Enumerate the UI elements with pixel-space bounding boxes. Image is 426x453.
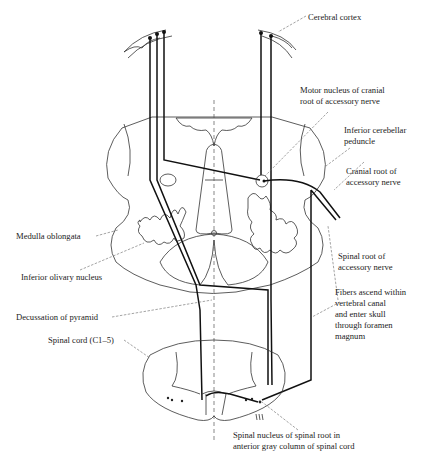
label-spinal-root-line1: Spinal root of — [338, 251, 385, 261]
label-inferior-cerebellar-line2: peduncle — [344, 136, 375, 146]
label-spinal-root-line2: accessory nerve — [338, 262, 393, 272]
leader-lines — [80, 16, 364, 430]
label-fibers-line2: vertebral canal — [335, 298, 386, 308]
label-fibers-line1: Fibers ascend within — [335, 287, 406, 297]
medulla-outline — [107, 117, 326, 294]
olivary-right — [248, 193, 298, 253]
cerebral-cortex-left — [124, 30, 172, 58]
label-spinal-nucleus-line1: Spinal nucleus of spinal root in — [233, 430, 340, 440]
cortical-neurons — [148, 30, 273, 40]
label-cranial-root-line1: Cranial root of — [346, 166, 397, 176]
label-medulla-oblongata: Medulla oblongata — [16, 231, 81, 241]
spinal-root — [262, 190, 336, 400]
icp-left — [124, 124, 130, 176]
tracts-right — [261, 33, 272, 385]
cerebral-cortex-right — [258, 30, 296, 58]
label-inferior-cerebellar-line1: Inferior cerebellar — [344, 125, 406, 135]
label-motor-nucleus-line1: Motor nucleus of cranial — [300, 85, 385, 95]
label-motor-nucleus-line2: root of accessory nerve — [300, 96, 380, 106]
label-cerebral-cortex: Cerebral cortex — [308, 12, 361, 22]
label-inferior-olivary-nucleus: Inferior olivary nucleus — [21, 272, 102, 282]
olivary-left — [138, 207, 186, 244]
label-fibers-line5: magnum — [335, 331, 365, 341]
label-fibers-line4: through foramen — [335, 320, 393, 330]
label-fibers-line3: and enter skull — [335, 309, 386, 319]
icp-right — [300, 124, 305, 176]
label-decussation-of-pyramid: Decussation of pyramid — [16, 312, 98, 322]
left-nucleus — [160, 174, 176, 186]
label-cranial-root-line2: accessory nerve — [346, 177, 401, 187]
label-spinal-cord: Spinal cord (C1–5) — [48, 335, 114, 345]
label-spinal-nucleus-line2: anterior gray column of spinal cord — [233, 441, 354, 451]
accessory-nerve-diagram — [0, 0, 426, 453]
